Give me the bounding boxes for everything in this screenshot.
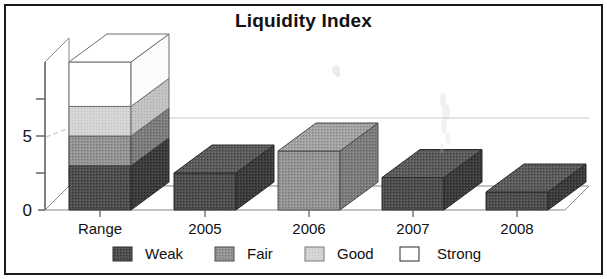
legend-label-fair: Fair [247, 245, 273, 262]
chart-svg: 0 5 [0, 0, 607, 279]
legend-item-good: Good [305, 245, 374, 262]
chart-legend: Weak Fair Good Strong [113, 245, 481, 262]
x-label-2008: 2008 [500, 220, 533, 237]
legend-swatch-fair [215, 247, 234, 261]
y-axis: 0 5 [23, 62, 46, 220]
legend-label-weak: Weak [145, 245, 184, 262]
plot-3d-left-wall [45, 38, 69, 210]
x-label-range: Range [78, 220, 122, 237]
x-label-2005: 2005 [188, 220, 221, 237]
bar-range [69, 34, 169, 210]
legend-swatch-strong [400, 247, 419, 261]
chart-plot-area: 0 5 [0, 0, 607, 279]
legend-label-good: Good [337, 245, 374, 262]
y-tick-label-0: 0 [23, 201, 32, 220]
legend-swatch-weak [113, 247, 132, 261]
x-label-2006: 2006 [292, 220, 325, 237]
legend-label-strong: Strong [437, 245, 481, 262]
x-axis-ticks [100, 210, 517, 217]
x-axis-labels: Range 2005 2006 2007 2008 [78, 220, 534, 237]
legend-item-fair: Fair [215, 245, 273, 262]
legend-item-strong: Strong [400, 245, 481, 262]
legend-swatch-good [305, 247, 324, 261]
x-label-2007: 2007 [396, 220, 429, 237]
legend-item-weak: Weak [113, 245, 184, 262]
y-tick-label-5: 5 [23, 127, 32, 146]
chart-screenshot: Liquidity Index [0, 0, 607, 279]
